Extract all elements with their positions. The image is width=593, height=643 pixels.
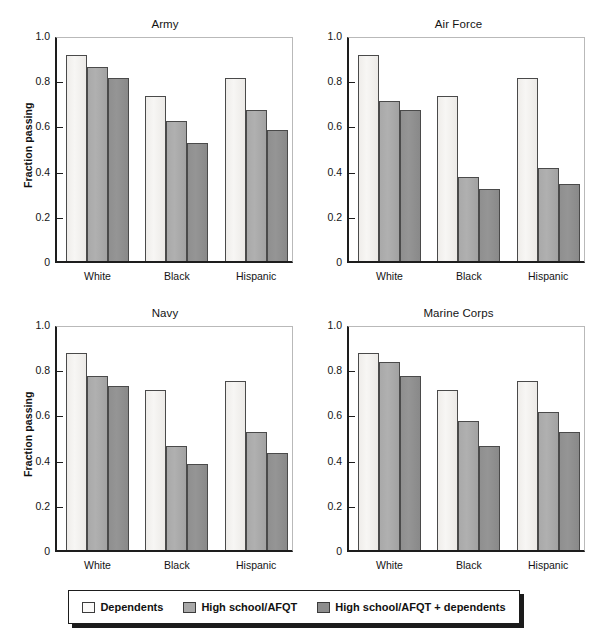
y-axis-tick-label: 0 [24, 545, 50, 557]
chart-panel-grid: ArmyFraction passing1.00.80.60.40.20Whit… [0, 0, 593, 585]
y-axis-tick [349, 218, 355, 219]
panel-title: Army [8, 18, 296, 30]
y-axis-tick [349, 371, 355, 372]
legend-label: Dependents [100, 601, 163, 613]
y-axis-tick [57, 218, 63, 219]
bar [517, 381, 538, 551]
bar [358, 55, 379, 261]
bar [267, 453, 288, 550]
bar [145, 96, 166, 261]
y-axis-tick-label: 1.0 [316, 319, 342, 331]
x-axis-tick-label: Black [142, 270, 212, 282]
y-axis-tick-label: 0.6 [316, 120, 342, 132]
y-axis-tick [57, 82, 63, 83]
y-axis-tick [349, 507, 355, 508]
x-axis-tick-label: White [63, 270, 133, 282]
bar [379, 101, 400, 261]
bar-layer [349, 38, 584, 261]
y-axis-tick [349, 462, 355, 463]
legend-item: High school/AFQT + dependents [317, 601, 505, 613]
bar [108, 78, 129, 261]
bar [379, 362, 400, 550]
y-axis-tick-label: 1.0 [316, 30, 342, 42]
legend-swatch-icon [317, 602, 330, 613]
bar [267, 130, 288, 261]
bar [225, 381, 246, 551]
plot-area [55, 37, 293, 263]
y-axis-tick-label: 0 [316, 545, 342, 557]
y-axis-tick-label: 0.8 [316, 364, 342, 376]
bar [538, 412, 559, 550]
y-axis-tick [349, 416, 355, 417]
bar-layer [57, 38, 292, 261]
bar [458, 421, 479, 550]
bar-layer [349, 327, 584, 550]
y-axis-tick-label: 0.2 [316, 211, 342, 223]
panel-title: Air Force [303, 18, 588, 30]
x-axis-tick-label: Black [434, 559, 504, 571]
y-axis-tick-label: 1.0 [24, 30, 50, 42]
chart-panel-marine-corps: Marine Corps1.00.80.60.40.20WhiteBlackHi… [303, 307, 588, 587]
legend-item: Dependents [82, 601, 163, 613]
x-axis-tick-label: Black [142, 559, 212, 571]
bar [187, 464, 208, 550]
x-axis-tick-label: White [355, 270, 425, 282]
bar [187, 143, 208, 261]
chart-legend: DependentsHigh school/AFQTHigh school/AF… [68, 590, 520, 624]
x-axis-tick-label: Hispanic [513, 559, 583, 571]
bar [437, 96, 458, 261]
chart-panel-air-force: Air Force1.00.80.60.40.20WhiteBlackHispa… [303, 18, 588, 303]
y-axis-tick [57, 371, 63, 372]
y-axis-tick [349, 173, 355, 174]
x-axis-tick-label: Hispanic [221, 559, 291, 571]
bar [358, 353, 379, 550]
y-axis-tick-label: 0.4 [24, 166, 50, 178]
bar [458, 177, 479, 261]
legend-swatch-icon [82, 602, 95, 613]
y-axis-tick [349, 82, 355, 83]
y-axis-tick-label: 0.6 [316, 409, 342, 421]
y-axis-tick-label: 0.8 [24, 364, 50, 376]
y-axis-tick-label: 0.4 [316, 166, 342, 178]
bar [246, 432, 267, 550]
x-axis-tick-label: Hispanic [221, 270, 291, 282]
y-axis-tick-label: 0 [316, 256, 342, 268]
y-axis-tick-label: 1.0 [24, 319, 50, 331]
y-axis-tick [57, 462, 63, 463]
bar [400, 110, 421, 261]
legend-label: High school/AFQT [201, 601, 297, 613]
x-axis-tick-label: White [355, 559, 425, 571]
x-axis-tick-label: Black [434, 270, 504, 282]
bar [87, 67, 108, 261]
bar [225, 78, 246, 261]
bar [145, 390, 166, 550]
y-axis-tick-label: 0.8 [316, 75, 342, 87]
chart-panel-army: ArmyFraction passing1.00.80.60.40.20Whit… [8, 18, 296, 303]
legend-item: High school/AFQT [183, 601, 297, 613]
panel-title: Navy [8, 307, 296, 319]
bar-layer [57, 327, 292, 550]
y-axis-tick-label: 0.4 [24, 455, 50, 467]
y-axis-tick [57, 507, 63, 508]
bar [517, 78, 538, 261]
y-axis-tick-label: 0.8 [24, 75, 50, 87]
bar [479, 446, 500, 550]
y-axis-tick-label: 0.6 [24, 120, 50, 132]
x-axis-tick-label: Hispanic [513, 270, 583, 282]
bar [66, 55, 87, 261]
bar [437, 390, 458, 550]
legend-label: High school/AFQT + dependents [335, 601, 505, 613]
bar [559, 432, 580, 550]
chart-panel-navy: NavyFraction passing1.00.80.60.40.20Whit… [8, 307, 296, 587]
y-axis-tick [349, 127, 355, 128]
bar [87, 376, 108, 550]
cropped-caption-strip [6, 633, 126, 641]
bar [400, 376, 421, 550]
y-axis-tick [57, 416, 63, 417]
plot-area [55, 326, 293, 552]
x-axis-tick-label: White [63, 559, 133, 571]
plot-area [347, 37, 585, 263]
legend-swatch-icon [183, 602, 196, 613]
y-axis-tick [57, 127, 63, 128]
y-axis-tick-label: 0.2 [24, 211, 50, 223]
